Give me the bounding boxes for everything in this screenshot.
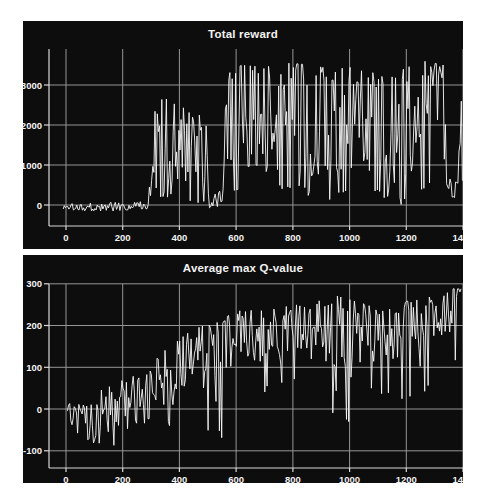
x-tick-label: 1000 [339,232,360,243]
y-tick-label: -100 [23,445,42,456]
total-reward-chart-title: Total reward [208,28,278,40]
y-tick-label: 2000 [23,120,42,131]
q-value-chart-panel: 0200400600800100012001400-1000100200300A… [23,255,463,483]
x-tick-label: 1400 [452,474,463,483]
x-tick-label: 800 [285,232,301,243]
x-tick-label: 200 [115,232,131,243]
x-tick-label: 1000 [339,474,360,483]
x-tick-label: 1400 [452,232,463,243]
plot-background [23,255,463,483]
y-tick-label: 0 [37,404,42,415]
y-tick-label: 100 [26,362,42,373]
y-tick-label: 1000 [23,160,42,171]
q-value-plot-canvas: 0200400600800100012001400-1000100200300A… [23,255,463,483]
x-tick-label: 0 [63,232,68,243]
x-tick-label: 600 [228,474,244,483]
figure-page: 02004006008001000120014000100020003000To… [0,0,482,494]
q-value-chart-title: Average max Q-value [183,262,303,274]
x-tick-label: 1200 [396,474,417,483]
x-tick-label: 800 [285,474,301,483]
x-tick-label: 600 [228,232,244,243]
x-tick-label: 400 [171,232,187,243]
y-tick-label: 3000 [23,80,42,91]
y-tick-label: 200 [26,320,42,331]
y-tick-label: 300 [26,278,42,289]
total-reward-plot-canvas: 02004006008001000120014000100020003000To… [23,21,463,249]
x-tick-label: 200 [115,474,131,483]
total-reward-chart-panel: 02004006008001000120014000100020003000To… [23,21,463,249]
x-tick-label: 400 [171,474,187,483]
x-tick-label: 1200 [396,232,417,243]
y-tick-label: 0 [37,200,42,211]
x-tick-label: 0 [63,474,68,483]
